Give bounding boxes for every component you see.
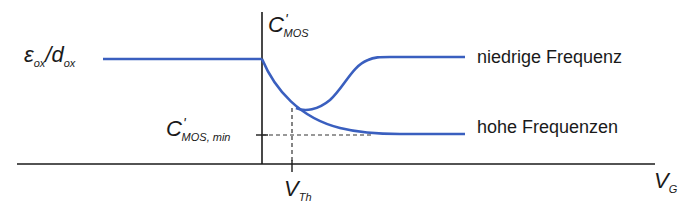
cv-diagram	[0, 0, 687, 208]
threshold-voltage-label: VTh	[284, 178, 312, 200]
v-symbol: V	[654, 168, 669, 193]
cmin-subscript: MOS, min	[182, 131, 231, 143]
prime-mark: '	[285, 11, 288, 27]
cmin-label: C'MOS, min	[166, 118, 230, 140]
vth-subscript: Th	[299, 191, 312, 203]
oxide-capacitance-label: εox/dox	[24, 44, 75, 66]
c-symbol: C	[166, 116, 182, 141]
low-frequency-label: niedrige Frequenz	[477, 48, 622, 66]
c-symbol: C	[268, 12, 284, 37]
y-axis-label: C'MOS	[268, 14, 309, 36]
y-axis-subscript: MOS	[284, 27, 309, 39]
v-symbol: V	[284, 176, 299, 201]
d-symbol: d	[51, 42, 63, 67]
x-axis-subscript: G	[669, 183, 678, 195]
epsilon-symbol: ε	[24, 42, 34, 67]
high-frequency-label: hohe Frequenzen	[477, 118, 618, 136]
low-frequency-curve	[296, 57, 465, 110]
epsilon-subscript: ox	[34, 57, 46, 69]
d-subscript: ox	[64, 57, 76, 69]
prime-mark: '	[183, 115, 186, 131]
x-axis-label: VG	[654, 170, 677, 192]
